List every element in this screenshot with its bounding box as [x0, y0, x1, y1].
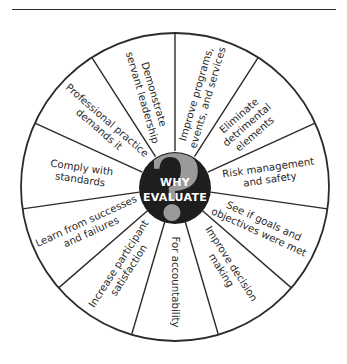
hub-label-line-2: EVALUATE [143, 191, 207, 204]
why-evaluate-wheel: Improve programs,events, and servicesEli… [0, 0, 347, 364]
segment-accountability: For accountability [170, 237, 181, 328]
segment-label-line: For accountability [170, 237, 181, 328]
hub-label-line-1: WHY [160, 176, 191, 189]
